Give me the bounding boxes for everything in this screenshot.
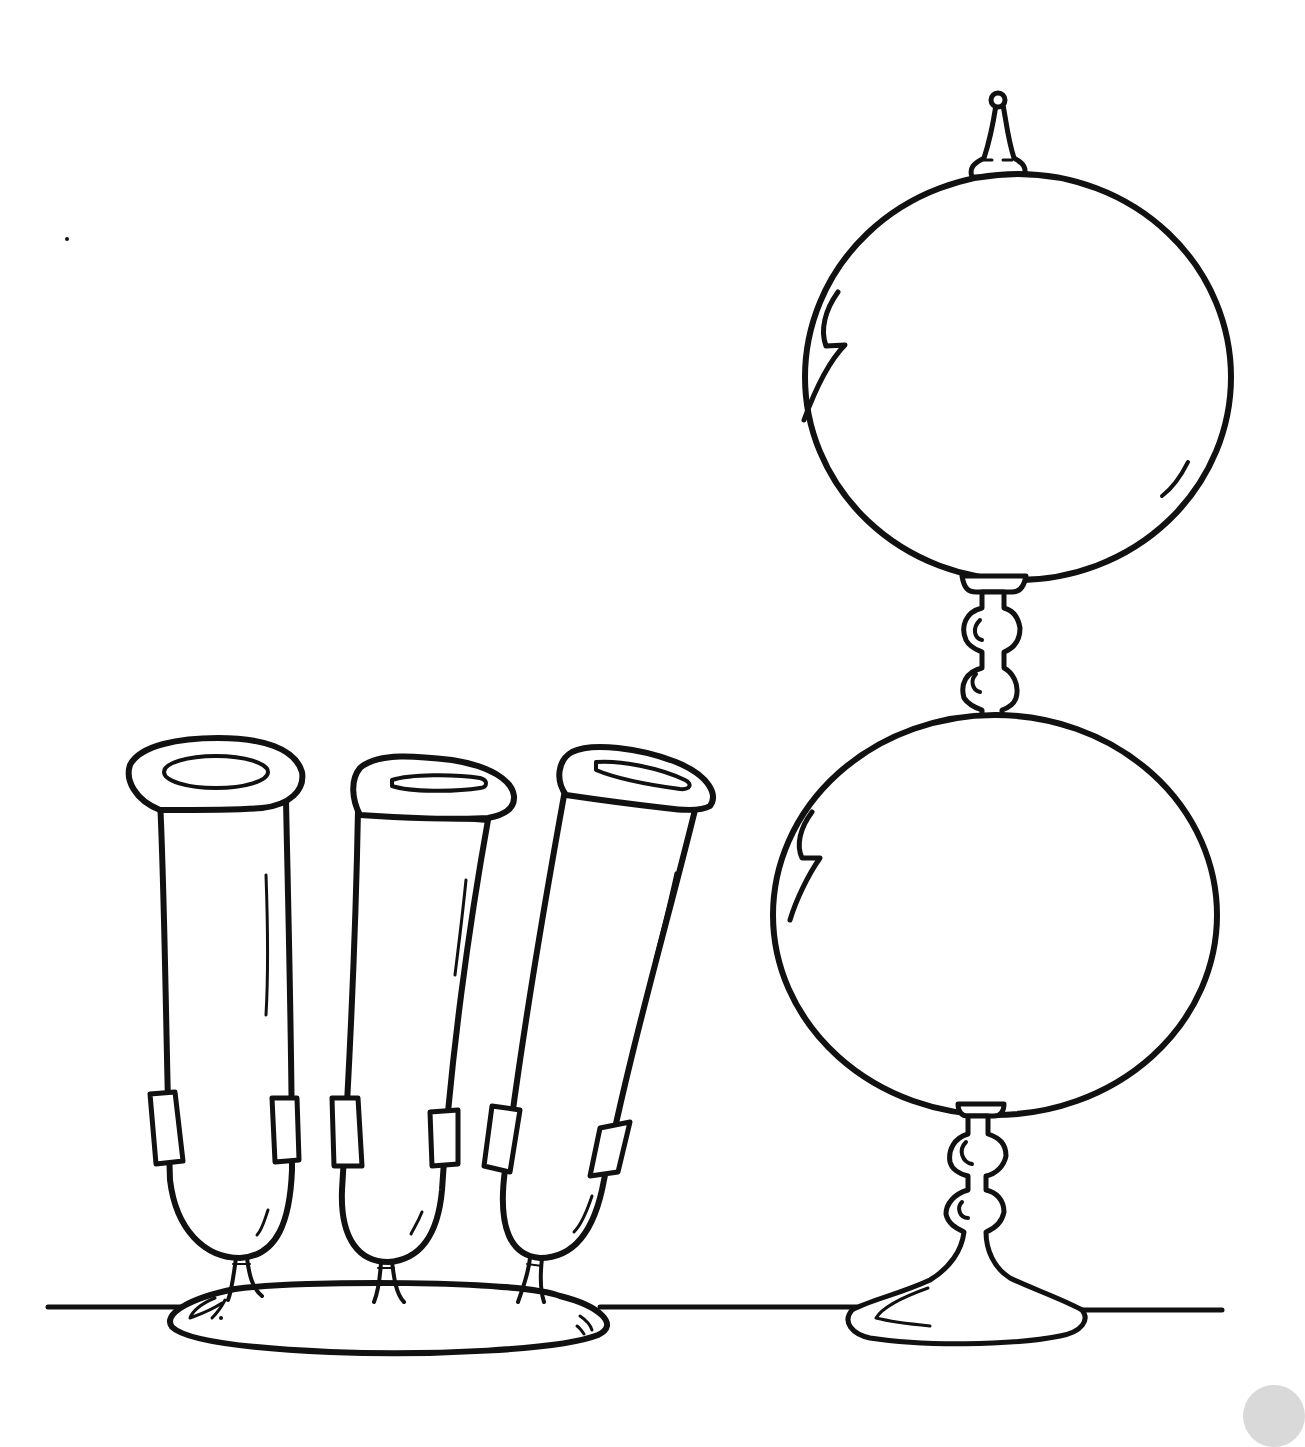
- stray-dot: [65, 237, 69, 241]
- lower-stem: [848, 1104, 1085, 1344]
- test-tube-rack: [129, 738, 713, 1353]
- test-tube-3: [484, 747, 713, 1302]
- lower-sphere: [773, 715, 1217, 1115]
- finial: [971, 93, 1025, 177]
- upper-sphere: [805, 174, 1231, 580]
- corner-mark: [1243, 1385, 1305, 1447]
- test-tube-2: [332, 756, 514, 1302]
- double-sphere-glass: [773, 93, 1231, 1344]
- middle-stem: [962, 576, 1026, 716]
- test-tube-1: [129, 738, 303, 1300]
